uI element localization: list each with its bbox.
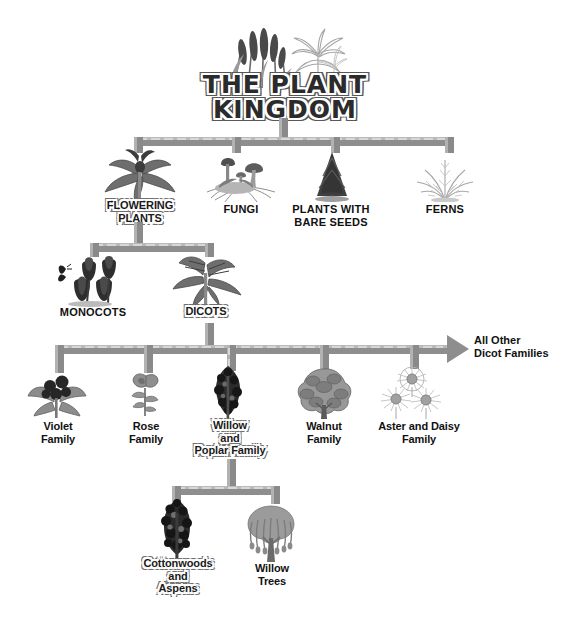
- art-weeping-willow: [240, 504, 302, 562]
- connector-level1-drop-fungi: [232, 137, 241, 153]
- label-willow-and-poplar-family: Willow and Poplar Family: [182, 419, 278, 457]
- art-fern-fronds: [411, 152, 479, 202]
- label-rose-family: Rose Family: [103, 420, 189, 445]
- art-broad-leaf-plant: [163, 253, 249, 309]
- label-dicots: DICOTS: [168, 305, 244, 318]
- title-line-1: THE PLANT: [178, 72, 392, 97]
- label-cottonwoods-and-aspens: Cottonwoods and Aspens: [130, 557, 226, 595]
- connector-level1-bar: [134, 137, 454, 146]
- connector-level3-bar: [55, 345, 447, 354]
- art-violet-flower: [99, 148, 181, 203]
- connector-level1-drop-ferns: [445, 137, 454, 153]
- label-aster-and-daisy-family: Aster and Daisy Family: [364, 420, 474, 445]
- label-willow-trees: Willow Trees: [230, 562, 314, 587]
- art-poplar-tree: [204, 366, 252, 420]
- connector-level4-drop-willow-trees: [271, 486, 280, 504]
- label-flowering-plants: FLOWERING PLANTS: [85, 199, 195, 224]
- art-cottonwood-tree: [152, 499, 202, 561]
- arrow-right-icon: [447, 335, 469, 363]
- label-plants-with-bare-seeds: PLANTS WITH BARE SEEDS: [281, 203, 381, 228]
- label-ferns: FERNS: [400, 203, 490, 216]
- connector-flowering-stem: [134, 222, 143, 244]
- connector-willow-poplar-stem: [227, 459, 236, 487]
- art-violet-plant: [22, 372, 92, 418]
- connector-dicots-stem: [205, 323, 214, 346]
- label-violet-family: Violet Family: [12, 420, 104, 445]
- plant-kingdom-diagram: THE PLANT KINGDOM FLOWERING PLANTS: [0, 0, 570, 627]
- butterfly-detail: [58, 264, 72, 281]
- label-all-other-dicot-families: All Other Dicot Families: [474, 334, 570, 360]
- connector-level3-drop-aster: [410, 345, 419, 369]
- connector-level3-drop-walnut: [320, 345, 329, 369]
- art-daisies: [379, 367, 445, 419]
- connector-level1-drop-bareseeds: [331, 137, 340, 153]
- connector-level4-bar: [172, 486, 280, 495]
- label-fungi: FUNGI: [196, 203, 286, 216]
- art-mushroom-cluster: [205, 152, 277, 202]
- label-monocots: MONOCOTS: [45, 306, 141, 319]
- label-walnut-family: Walnut Family: [281, 420, 367, 445]
- art-tulips: [52, 255, 132, 307]
- connector-level3-drop-rose: [144, 345, 153, 373]
- art-conifer-tree: [303, 152, 361, 202]
- connector-level2-bar: [90, 243, 214, 252]
- connector-level3-drop-violet: [55, 345, 64, 373]
- art-rose-stem: [118, 372, 172, 418]
- art-walnut-tree: [294, 367, 354, 419]
